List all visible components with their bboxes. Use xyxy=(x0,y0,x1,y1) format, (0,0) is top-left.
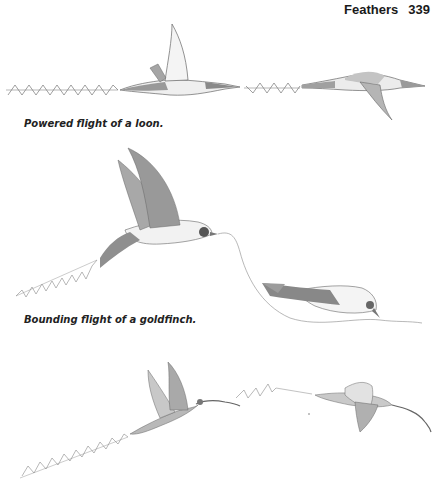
flight-path-bounding xyxy=(218,233,422,323)
figure-caption-loon: Powered flight of a loon. xyxy=(24,118,163,129)
curlew-wings-up xyxy=(130,362,240,434)
curlew-wings-down xyxy=(315,382,431,432)
goldfinch-figure xyxy=(16,148,422,323)
flight-path-zigzag xyxy=(22,434,128,476)
loon-figure xyxy=(6,24,425,120)
goldfinch-wings-up xyxy=(100,148,218,268)
figure-caption-goldfinch: Bounding flight of a goldfinch. xyxy=(24,314,196,325)
curlew-figure xyxy=(20,362,431,478)
loon-wings-down xyxy=(302,72,425,120)
flight-illustrations xyxy=(0,0,436,481)
loon-wings-up xyxy=(120,24,240,95)
